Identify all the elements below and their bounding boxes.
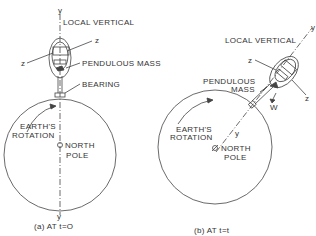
north-pole-label-b-2: POLE bbox=[224, 154, 247, 162]
pendulous-mass-a bbox=[56, 66, 64, 71]
z-label-right-a: z bbox=[95, 37, 99, 45]
pendulous-mass-label-b-2: MASS bbox=[231, 86, 255, 94]
pendulous-mass-b bbox=[270, 82, 278, 88]
pendulous-mass-label-a: PENDULOUS MASS bbox=[82, 60, 161, 68]
caption-b: (b) AT t=t bbox=[194, 227, 229, 235]
y-label-bottom-a: y bbox=[57, 213, 61, 221]
caption-a: (a) AT t=O bbox=[34, 223, 73, 231]
rotation-arrowhead-b bbox=[207, 98, 213, 103]
local-vertical-label-b: LOCAL VERTICAL bbox=[225, 37, 296, 45]
earth-circle-b bbox=[158, 90, 272, 204]
z-axis-b-left bbox=[255, 60, 276, 70]
earths-rotation-label-a-2: ROTATION bbox=[12, 132, 55, 140]
y-label-top-b: y bbox=[311, 24, 315, 32]
rotation-arrowhead-a bbox=[50, 104, 56, 109]
z-axis-a-right bbox=[67, 41, 92, 51]
z-label-right-b: z bbox=[305, 95, 309, 103]
z-label-left-b: z bbox=[248, 57, 252, 65]
rotation-arrow-b bbox=[178, 100, 212, 124]
north-pole-label-b-1: NORTH bbox=[221, 145, 251, 153]
bearing-label-a: BEARING bbox=[82, 81, 120, 89]
z-axis-b-right bbox=[292, 80, 306, 95]
north-pole-label-a-2: POLE bbox=[66, 152, 89, 160]
y-label-axis-b: y bbox=[235, 130, 239, 138]
earths-rotation-label-a-1: EARTH'S bbox=[20, 123, 56, 131]
local-vertical-label-a: LOCAL VERTICAL bbox=[63, 19, 134, 27]
earths-rotation-label-b-2: ROTATION bbox=[170, 134, 213, 142]
y-label-top-a: y bbox=[58, 7, 62, 15]
north-pole-label-a-1: NORTH bbox=[65, 142, 95, 150]
z-label-left-a: z bbox=[21, 60, 25, 68]
w-label: W bbox=[270, 104, 278, 112]
